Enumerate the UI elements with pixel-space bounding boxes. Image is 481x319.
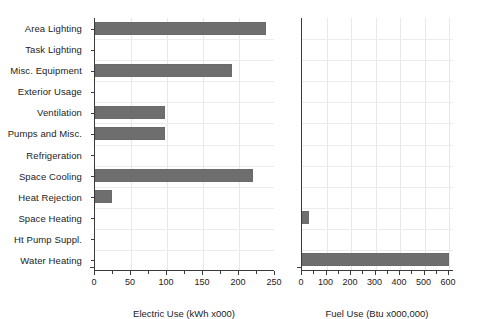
bar-row bbox=[95, 249, 274, 270]
axis-corner-tick bbox=[297, 267, 301, 268]
x-axis-title-fuel: Fuel Use (Btu x000,000) bbox=[301, 308, 453, 319]
category-label: Ventilation bbox=[0, 102, 88, 123]
category-label: Pumps and Misc. bbox=[0, 123, 88, 144]
category-tick bbox=[91, 197, 95, 198]
bar bbox=[95, 64, 232, 77]
bar-row bbox=[95, 207, 274, 228]
x-tick-minor bbox=[387, 271, 388, 274]
x-tick-label: 250 bbox=[266, 277, 281, 287]
x-ticks-electric bbox=[94, 271, 274, 276]
axis-corner-tick bbox=[90, 267, 94, 268]
category-tick bbox=[91, 29, 95, 30]
bar bbox=[95, 106, 165, 119]
category-tick bbox=[91, 134, 95, 135]
bar-row bbox=[302, 39, 453, 60]
bar-row bbox=[95, 186, 274, 207]
x-tick-minor bbox=[184, 271, 185, 274]
x-tick-label: 300 bbox=[367, 277, 382, 287]
x-tick-label: 600 bbox=[441, 277, 456, 287]
category-axis-labels: Area LightingTask LightingMisc. Equipmen… bbox=[0, 18, 88, 271]
bar-row bbox=[95, 144, 274, 165]
category-label: Ht Pump Suppl. bbox=[0, 229, 88, 250]
x-tick-minor bbox=[436, 271, 437, 274]
x-tick-major bbox=[202, 271, 203, 275]
x-tick-major bbox=[424, 271, 425, 275]
category-label: Space Heating bbox=[0, 208, 88, 229]
x-tick-label: 100 bbox=[158, 277, 173, 287]
x-tick-label: 200 bbox=[230, 277, 245, 287]
x-tick-major bbox=[326, 271, 327, 275]
x-tick-label: 0 bbox=[298, 277, 303, 287]
category-tick bbox=[91, 113, 95, 114]
x-tick-label: 200 bbox=[343, 277, 358, 287]
x-axis-title-electric: Electric Use (kWh x000) bbox=[94, 308, 274, 319]
bar-row bbox=[95, 102, 274, 123]
category-tick bbox=[91, 260, 95, 261]
bar-row bbox=[302, 207, 453, 228]
category-tick bbox=[91, 176, 95, 177]
bar bbox=[302, 211, 309, 224]
x-tick-minor bbox=[313, 271, 314, 274]
bar-row bbox=[95, 39, 274, 60]
category-label: Space Cooling bbox=[0, 166, 88, 187]
x-tick-major bbox=[399, 271, 400, 275]
x-tick-labels-fuel: 0100200300400500600 bbox=[301, 277, 453, 291]
x-tick-major bbox=[375, 271, 376, 275]
x-tick-label: 150 bbox=[194, 277, 209, 287]
x-tick-major bbox=[448, 271, 449, 275]
x-tick-minor bbox=[362, 271, 363, 274]
bar bbox=[95, 22, 266, 35]
bar bbox=[95, 127, 165, 140]
bar-row bbox=[302, 102, 453, 123]
x-tick-minor bbox=[411, 271, 412, 274]
category-label: Exterior Usage bbox=[0, 81, 88, 102]
plot-area-fuel bbox=[301, 18, 453, 271]
x-tick-labels-electric: 050100150200250 bbox=[94, 277, 274, 291]
x-tick-label: 100 bbox=[318, 277, 333, 287]
category-tick bbox=[91, 50, 95, 51]
x-tick-major bbox=[238, 271, 239, 275]
bar-row bbox=[302, 165, 453, 186]
bar-row bbox=[302, 60, 453, 81]
x-tick-minor bbox=[338, 271, 339, 274]
x-tick-major bbox=[301, 271, 302, 275]
x-tick-minor bbox=[112, 271, 113, 274]
bar-row bbox=[302, 144, 453, 165]
bar-row bbox=[95, 123, 274, 144]
category-tick bbox=[91, 218, 95, 219]
x-tick-major bbox=[350, 271, 351, 275]
x-tick-label: 50 bbox=[125, 277, 135, 287]
category-label: Heat Rejection bbox=[0, 187, 88, 208]
bar-row bbox=[302, 186, 453, 207]
bar-row bbox=[302, 81, 453, 102]
bar-row bbox=[95, 228, 274, 249]
category-label: Refrigeration bbox=[0, 144, 88, 165]
category-tick bbox=[91, 92, 95, 93]
category-tick bbox=[91, 71, 95, 72]
x-tick-label: 500 bbox=[416, 277, 431, 287]
bar-row bbox=[95, 60, 274, 81]
x-ticks-fuel bbox=[301, 271, 453, 276]
bars-fuel bbox=[302, 18, 453, 270]
bar-row bbox=[302, 228, 453, 249]
bars-electric bbox=[95, 18, 274, 270]
bar bbox=[302, 253, 449, 266]
category-label: Task Lighting bbox=[0, 39, 88, 60]
x-tick-minor bbox=[256, 271, 257, 274]
bar bbox=[95, 169, 253, 182]
category-tick bbox=[91, 239, 95, 240]
x-tick-major bbox=[274, 271, 275, 275]
x-tick-label: 0 bbox=[91, 277, 96, 287]
bar-row bbox=[302, 249, 453, 270]
x-tick-major bbox=[166, 271, 167, 275]
category-label: Water Heating bbox=[0, 250, 88, 271]
bar bbox=[95, 190, 112, 203]
bar-row bbox=[95, 165, 274, 186]
category-tick bbox=[91, 155, 95, 156]
x-tick-major bbox=[94, 271, 95, 275]
bar-row bbox=[95, 18, 274, 39]
bar-row bbox=[302, 18, 453, 39]
category-label: Area Lighting bbox=[0, 18, 88, 39]
panel-fuel-use: 0100200300400500600 Fuel Use (Btu x000,0… bbox=[301, 18, 453, 271]
